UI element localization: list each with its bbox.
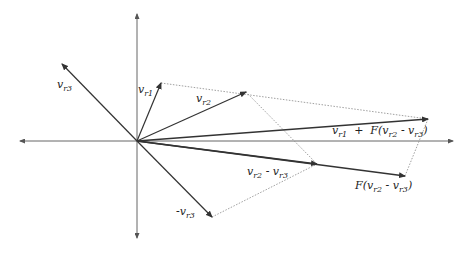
label-vr1: vr1 — [138, 84, 153, 98]
vector-neg-vr3 — [137, 141, 212, 217]
label-vr2: vr2 — [196, 93, 211, 107]
label-vr2-minus-vr3: vr2 - vr3 — [247, 166, 288, 180]
label-sum: vr1 + F(vr2 - vr3) — [332, 125, 428, 139]
label-F-vr2-minus-vr3: F(vr2 - vr3) — [355, 180, 412, 194]
vector-diagram: vr1 vr2 vr3 -vr3 vr2 - vr3 F(vr2 - vr3) … — [0, 0, 472, 253]
label-neg-vr3: -vr3 — [176, 206, 195, 220]
label-vr3: vr3 — [57, 79, 72, 93]
vectors — [62, 64, 428, 217]
vector-vr3 — [62, 64, 137, 141]
